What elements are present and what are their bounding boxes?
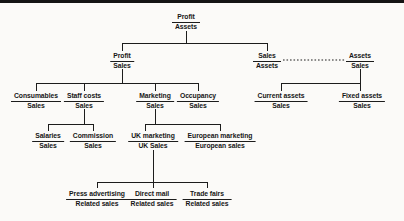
ratio-denominator: Assets <box>253 62 281 71</box>
ratio-numerator: Commission <box>70 132 116 142</box>
ratio-denominator: European sales <box>185 142 256 151</box>
ratio-denominator: Sales <box>339 102 385 111</box>
ratio-denominator: Sales <box>346 62 374 71</box>
connector-lines <box>0 0 404 221</box>
ratio-denominator: UK Sales <box>128 142 178 151</box>
node-profit-assets: Profit Assets <box>172 13 200 31</box>
node-direct-mail: Direct mail Related sales <box>128 190 177 208</box>
ratio-denominator: Related sales <box>128 200 177 209</box>
ratio-numerator: Current assets <box>255 92 308 102</box>
node-profit-sales: Profit Sales <box>110 52 134 70</box>
ratio-numerator: Marketing <box>136 92 174 102</box>
node-salaries: Salaries Sales <box>32 132 64 150</box>
ratio-numerator: Profit <box>110 52 134 62</box>
ratio-numerator: European marketing <box>185 132 256 142</box>
node-marketing: Marketing Sales <box>136 92 174 110</box>
node-current-assets: Current assets Sales <box>255 92 308 110</box>
ratio-numerator: Consumables <box>11 92 61 102</box>
ratio-denominator: Sales <box>32 142 64 151</box>
ratio-denominator: Sales <box>136 102 174 111</box>
ratio-numerator: Profit <box>172 13 200 23</box>
node-european-marketing: European marketing European sales <box>185 132 256 150</box>
ratio-numerator: Sales <box>253 52 281 62</box>
node-trade-fairs: Trade fairs Related sales <box>183 190 232 208</box>
ratio-denominator: Related sales <box>66 200 128 209</box>
ratio-denominator: Sales <box>70 142 116 151</box>
ratio-numerator: Trade fairs <box>183 190 232 200</box>
ratio-denominator: Sales <box>64 102 104 111</box>
ratio-denominator: Assets <box>172 23 200 32</box>
node-uk-marketing: UK marketing UK Sales <box>128 132 178 150</box>
ratio-denominator: Related sales <box>183 200 232 209</box>
ratio-denominator: Sales <box>110 62 134 71</box>
node-sales-assets: Sales Assets <box>253 52 281 70</box>
ratio-numerator: Fixed assets <box>339 92 385 102</box>
ratio-numerator: Occupancy <box>177 92 219 102</box>
node-consumables: Consumables Sales <box>11 92 61 110</box>
ratio-denominator: Sales <box>177 102 219 111</box>
node-fixed-assets: Fixed assets Sales <box>339 92 385 110</box>
node-press-advertising: Press advertising Related sales <box>66 190 128 208</box>
node-occupancy: Occupancy Sales <box>177 92 219 110</box>
ratio-denominator: Sales <box>11 102 61 111</box>
ratio-numerator: Salaries <box>32 132 64 142</box>
ratio-numerator: Press advertising <box>66 190 128 200</box>
ratio-numerator: UK marketing <box>128 132 178 142</box>
ratio-numerator: Staff costs <box>64 92 104 102</box>
node-staff-costs: Staff costs Sales <box>64 92 104 110</box>
node-commission: Commission Sales <box>70 132 116 150</box>
ratio-numerator: Direct mail <box>128 190 177 200</box>
node-assets-sales: Assets Sales <box>346 52 374 70</box>
ratio-denominator: Sales <box>255 102 308 111</box>
ratio-pyramid-diagram: Profit Assets Profit Sales Sales Assets … <box>0 0 404 221</box>
ratio-numerator: Assets <box>346 52 374 62</box>
